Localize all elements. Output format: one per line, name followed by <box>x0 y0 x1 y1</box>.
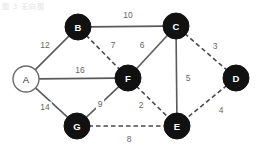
edge-weight-label-a-b: 12 <box>40 40 50 50</box>
graph-node-label-f: F <box>125 73 131 84</box>
edge-weight-label-a-f: 16 <box>75 65 85 75</box>
graph-node-e[interactable]: E <box>164 113 190 139</box>
graph-node-label-b: B <box>75 22 82 33</box>
graph-edge-c-d <box>185 34 228 71</box>
weighted-graph-svg: 1210763516149248 ABCDEFG <box>0 0 265 149</box>
edge-weight-label-c-d: 3 <box>213 41 218 51</box>
graph-edge-c-e <box>176 37 177 114</box>
edge-weight-label-g-f: 9 <box>98 99 103 109</box>
edge-weight-label-g-e: 8 <box>127 134 132 144</box>
graph-node-label-c: C <box>173 21 180 32</box>
graph-node-b[interactable]: B <box>65 14 91 40</box>
nodes-layer: ABCDEFG <box>13 13 249 139</box>
graph-node-label-d: D <box>233 73 240 84</box>
edge-weight-label-a-g: 14 <box>40 102 50 112</box>
graph-node-label-a: A <box>23 74 30 85</box>
graph-node-c[interactable]: C <box>163 13 189 39</box>
graph-node-g[interactable]: G <box>64 113 90 139</box>
graph-node-f[interactable]: F <box>115 65 141 91</box>
edge-weight-label-b-f: 7 <box>111 40 116 50</box>
graph-node-label-g: G <box>73 121 80 132</box>
edge-weight-label-b-c: 10 <box>123 10 133 20</box>
graph-diagram-canvas: 图 3 无向图 1210763516149248 ABCDEFG <box>0 0 265 149</box>
edge-weight-label-c-e: 5 <box>186 73 191 83</box>
graph-node-a[interactable]: A <box>13 66 39 92</box>
edge-weight-label-d-e: 4 <box>219 105 224 115</box>
edge-weight-label-f-e: 2 <box>139 100 144 110</box>
edge-weight-label-c-f: 6 <box>140 40 145 50</box>
graph-edge-b-c <box>89 26 164 27</box>
graph-node-d[interactable]: D <box>223 65 249 91</box>
graph-node-label-e: E <box>174 121 180 132</box>
graph-edge-a-f <box>37 78 116 79</box>
